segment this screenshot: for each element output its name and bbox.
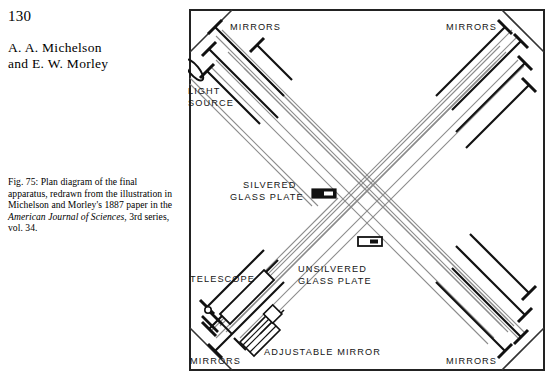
mirrors-label-bottom-right: MIRRORS xyxy=(446,356,497,366)
mirrors-label-top-right: MIRRORS xyxy=(446,22,497,32)
unsilvered-glass-plate xyxy=(358,237,382,246)
mirror-mount xyxy=(470,234,536,300)
adjustable-mirror-label: ADJUSTABLE MIRROR xyxy=(264,347,381,357)
author-line-2: and E. W. Morley xyxy=(8,56,108,72)
chamfer-edges xyxy=(190,10,544,370)
caption-text-1: Fig. 75: Plan diagram of the final appar… xyxy=(8,176,172,210)
mirror-group-bottom-right xyxy=(436,234,536,358)
author-names: A. A. Michelson and E. W. Morley xyxy=(8,40,108,72)
figure-page: 130 A. A. Michelson and E. W. Morley Fig… xyxy=(0,0,551,386)
silvered-plate-label-line1: SILVERED xyxy=(243,180,297,190)
figure-caption: Fig. 75: Plan diagram of the final appar… xyxy=(8,176,176,234)
mirrors-label-top-left: MIRRORS xyxy=(230,22,281,32)
light-source-label-line1: LIGHT xyxy=(188,86,221,96)
diagram-frame xyxy=(190,10,544,370)
author-line-1: A. A. Michelson xyxy=(8,40,108,56)
unsilvered-plate-label-line2: GLASS PLATE xyxy=(298,276,372,286)
mirror-mount xyxy=(250,38,292,80)
mirrors-label-bottom-left: MIRRORS xyxy=(190,356,241,366)
interferometer-diagram: LIGHT SOURCE SILVERED GLASS PLATE UNSILV… xyxy=(188,8,546,378)
interferometer-figure: LIGHT SOURCE SILVERED GLASS PLATE UNSILV… xyxy=(188,8,546,378)
caption-journal-title: American Journal of Sciences xyxy=(8,211,124,222)
light-source-label-line2: SOURCE xyxy=(188,98,234,108)
silvered-glass-plate xyxy=(312,189,336,198)
page-number: 130 xyxy=(8,8,31,25)
silvered-plate-label-line2: GLASS PLATE xyxy=(230,192,304,202)
telescope-label: TELESCOPE xyxy=(190,274,255,284)
mirror-group-top-right xyxy=(436,20,536,148)
unsilvered-plate-label-line1: UNSILVERED xyxy=(298,264,367,274)
